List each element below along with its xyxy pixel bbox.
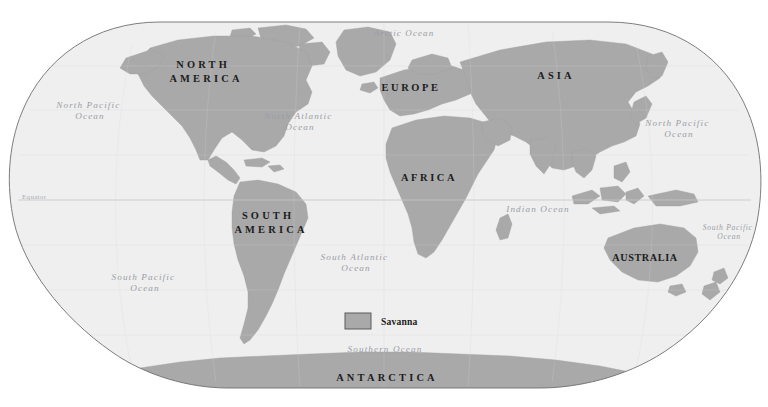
continent-label-asia: ASIA <box>537 70 575 81</box>
continent-label-europe: EUROPE <box>382 82 441 93</box>
world-map-figure: Equator Arctic Ocean North Pacific Ocean… <box>0 0 768 407</box>
ocean-label-arctic-ocean: Arctic Ocean <box>373 28 435 38</box>
ocean-label-indian-ocean: Indian Ocean <box>505 204 569 214</box>
legend-swatch-savanna <box>345 313 371 329</box>
continent-label-africa: AFRICA <box>401 172 457 183</box>
continent-label-australia: AUSTRALIA <box>612 252 677 263</box>
legend-label-savanna: Savanna <box>381 316 418 327</box>
equator-label: Equator <box>22 193 47 201</box>
map-legend: Savanna <box>345 313 418 329</box>
ocean-label-southern-ocean: Southern Ocean <box>348 344 423 354</box>
continent-label-antarctica: ANTARCTICA <box>336 372 438 383</box>
world-map-svg: Equator Arctic Ocean North Pacific Ocean… <box>0 0 768 407</box>
